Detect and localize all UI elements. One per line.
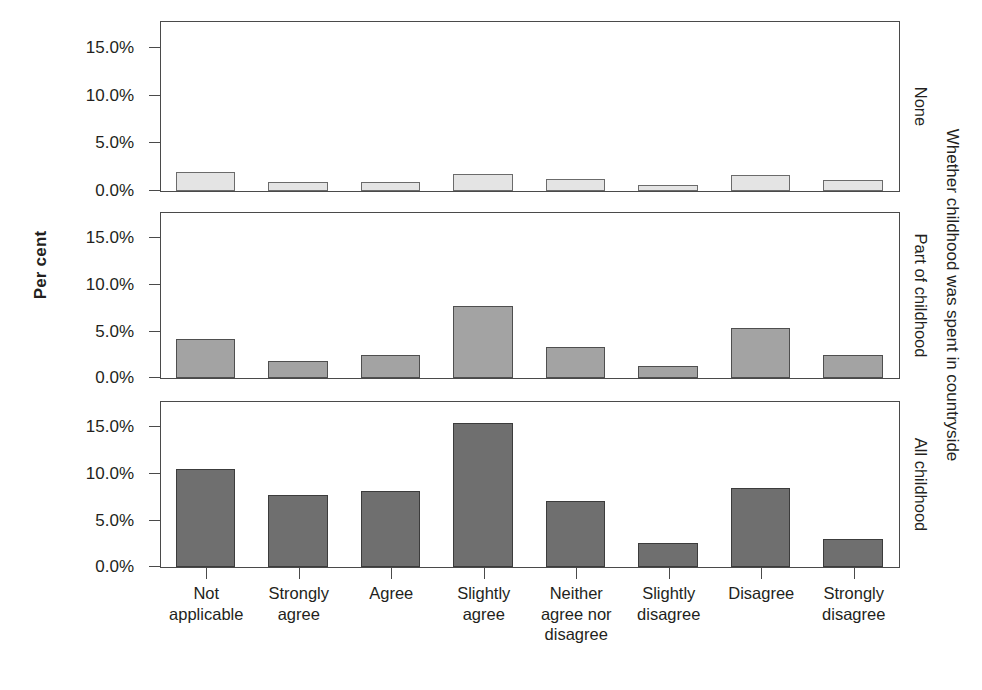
y-tick-label: 15.0% xyxy=(30,418,134,435)
x-tick-mark xyxy=(206,568,207,579)
bar xyxy=(638,185,698,191)
y-axis-title: Per cent xyxy=(31,195,51,335)
y-tick-mark xyxy=(149,284,160,285)
bar xyxy=(176,339,236,378)
x-tick-mark xyxy=(391,568,392,579)
bar xyxy=(823,539,883,567)
y-tick-label: 10.0% xyxy=(30,275,134,292)
y-tick-label: 10.0% xyxy=(30,86,134,103)
bar xyxy=(823,180,883,192)
bar xyxy=(546,501,606,567)
bar xyxy=(361,491,421,567)
y-tick-label: 10.0% xyxy=(30,464,134,481)
y-tick-mark xyxy=(149,377,160,378)
y-tick-label: 0.0% xyxy=(30,558,134,575)
bar xyxy=(546,347,606,378)
y-tick-mark xyxy=(149,473,160,474)
bar xyxy=(638,366,698,378)
y-tick-label: 0.0% xyxy=(30,369,134,386)
bar xyxy=(453,423,513,567)
x-tick-mark xyxy=(484,568,485,579)
bar xyxy=(453,174,513,191)
y-tick-mark xyxy=(149,47,160,48)
y-tick-mark xyxy=(149,520,160,521)
y-tick-mark xyxy=(149,566,160,567)
y-tick-label: 5.0% xyxy=(30,511,134,528)
bar xyxy=(268,361,328,378)
panel-none xyxy=(160,21,900,192)
y-tick-label: 5.0% xyxy=(30,322,134,339)
panel-part-of-childhood xyxy=(160,212,900,379)
strip-label-part-of-childhood: Part of childhood xyxy=(911,200,930,390)
y-tick-mark xyxy=(149,426,160,427)
panel-all-childhood xyxy=(160,401,900,568)
plot-area-none xyxy=(161,22,899,191)
y-tick-label: 15.0% xyxy=(30,38,134,55)
bar xyxy=(176,172,236,191)
strip-label-none: None xyxy=(911,11,930,201)
x-tick-mark xyxy=(669,568,670,579)
bar xyxy=(546,179,606,191)
outer-strip-label: Whether childhood was spent in countrysi… xyxy=(942,15,962,575)
y-tick-label: 15.0% xyxy=(30,229,134,246)
y-tick-label: 5.0% xyxy=(30,134,134,151)
plot-area-part-of-childhood xyxy=(161,213,899,378)
y-tick-mark xyxy=(149,331,160,332)
bar xyxy=(176,469,236,567)
bar xyxy=(361,355,421,378)
x-tick-label: Strongly disagree xyxy=(800,583,909,624)
plot-area-all-childhood xyxy=(161,402,899,567)
strip-label-all-childhood: All childhood xyxy=(911,389,930,579)
x-tick-mark xyxy=(761,568,762,579)
y-tick-mark xyxy=(149,237,160,238)
bar xyxy=(731,175,791,191)
bar xyxy=(268,495,328,567)
y-tick-mark xyxy=(149,190,160,191)
bar xyxy=(731,488,791,567)
bar xyxy=(268,182,328,191)
bar xyxy=(453,306,513,378)
x-tick-mark xyxy=(854,568,855,579)
y-tick-mark xyxy=(149,95,160,96)
bar xyxy=(638,543,698,567)
bar xyxy=(731,328,791,378)
x-tick-mark xyxy=(576,568,577,579)
y-tick-label: 0.0% xyxy=(30,182,134,199)
bar-chart-figure: Per cent 0.0%5.0%10.0%15.0% 0.0%5.0%10.0… xyxy=(0,0,982,690)
x-tick-mark xyxy=(299,568,300,579)
bar xyxy=(823,355,883,378)
y-tick-mark xyxy=(149,142,160,143)
bar xyxy=(361,182,421,191)
